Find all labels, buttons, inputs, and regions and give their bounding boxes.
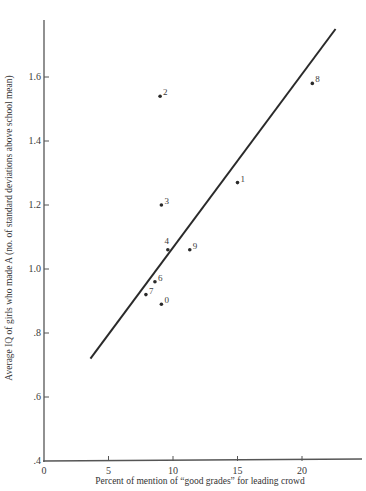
regression-line (90, 29, 335, 359)
y-tick-label: 1.6 (29, 71, 42, 82)
data-point (158, 94, 162, 98)
data-point (144, 293, 148, 297)
data-point (160, 302, 164, 306)
y-tick-label: .8 (34, 327, 42, 338)
x-tick-label: 20 (297, 465, 307, 476)
data-point (188, 248, 192, 252)
data-points: 012346789 (144, 74, 320, 306)
point-label: 1 (241, 174, 246, 184)
point-label: 2 (163, 87, 168, 97)
y-tick-label: 1.4 (29, 135, 42, 146)
point-label: 9 (193, 241, 198, 251)
data-point (160, 203, 164, 207)
point-label: 7 (149, 286, 154, 296)
x-tick-label: 15 (233, 465, 243, 476)
x-tick-label: 0 (42, 465, 47, 476)
data-point (311, 82, 315, 86)
point-label: 3 (164, 196, 169, 206)
x-axis-title: Percent of mention of “good grades” for … (95, 476, 305, 486)
y-axis-title: Average IQ of girls who made A (no. of s… (4, 75, 15, 380)
x-tick-label: 10 (168, 465, 178, 476)
axes (43, 20, 362, 462)
point-label: 6 (158, 273, 163, 283)
data-point (236, 181, 240, 185)
y-tick-label: 1.2 (29, 199, 42, 210)
point-label: 4 (165, 236, 170, 246)
point-label: 0 (164, 295, 169, 305)
ticks: 05101520.4.6.81.01.21.41.6 (29, 71, 308, 476)
point-label: 8 (315, 74, 320, 84)
y-tick-label: .6 (34, 391, 42, 402)
fit-line (90, 29, 335, 359)
x-axis-line (43, 459, 362, 461)
scatter-chart: 05101520.4.6.81.01.21.41.6 012346789 Per… (0, 0, 366, 491)
y-tick-label: .4 (34, 455, 42, 466)
y-tick-label: 1.0 (29, 263, 42, 274)
data-point (166, 248, 170, 252)
data-point (153, 280, 157, 284)
x-tick-label: 5 (106, 465, 111, 476)
